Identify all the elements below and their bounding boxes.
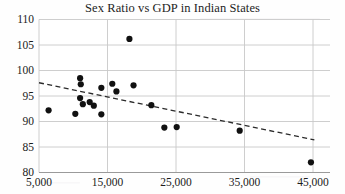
data-point xyxy=(77,75,83,81)
data-point xyxy=(308,159,314,165)
y-tick-label-105: 105 xyxy=(2,39,34,51)
scatter-plot xyxy=(0,0,345,194)
data-point xyxy=(113,88,119,94)
data-point xyxy=(98,85,104,91)
data-point xyxy=(109,81,115,87)
data-point xyxy=(98,111,104,117)
data-point xyxy=(126,36,132,42)
y-tick-label-95: 95 xyxy=(2,90,34,102)
data-point xyxy=(80,101,86,107)
x-tick-label-25000: 25,000 xyxy=(146,176,206,188)
data-point xyxy=(78,81,84,87)
data-point xyxy=(237,128,243,134)
data-point xyxy=(77,95,83,101)
y-tick-label-85: 85 xyxy=(2,141,34,153)
data-point xyxy=(45,107,51,113)
x-tick-label-15000: 15,000 xyxy=(78,176,138,188)
data-point xyxy=(91,103,97,109)
x-tick-label-45000: 45,000 xyxy=(283,176,343,188)
x-tick-label-35000: 35,000 xyxy=(215,176,275,188)
data-point xyxy=(161,125,167,131)
data-point xyxy=(174,124,180,130)
data-point xyxy=(148,102,154,108)
x-tick-label-5000: 5,000 xyxy=(9,176,69,188)
y-tick-label-110: 110 xyxy=(2,13,34,25)
y-tick-label-100: 100 xyxy=(2,64,34,76)
chart-page: Sex Ratio vs GDP in Indian States xyxy=(0,0,345,194)
y-tick-label-90: 90 xyxy=(2,115,34,127)
data-point xyxy=(72,111,78,117)
data-point xyxy=(130,82,136,88)
